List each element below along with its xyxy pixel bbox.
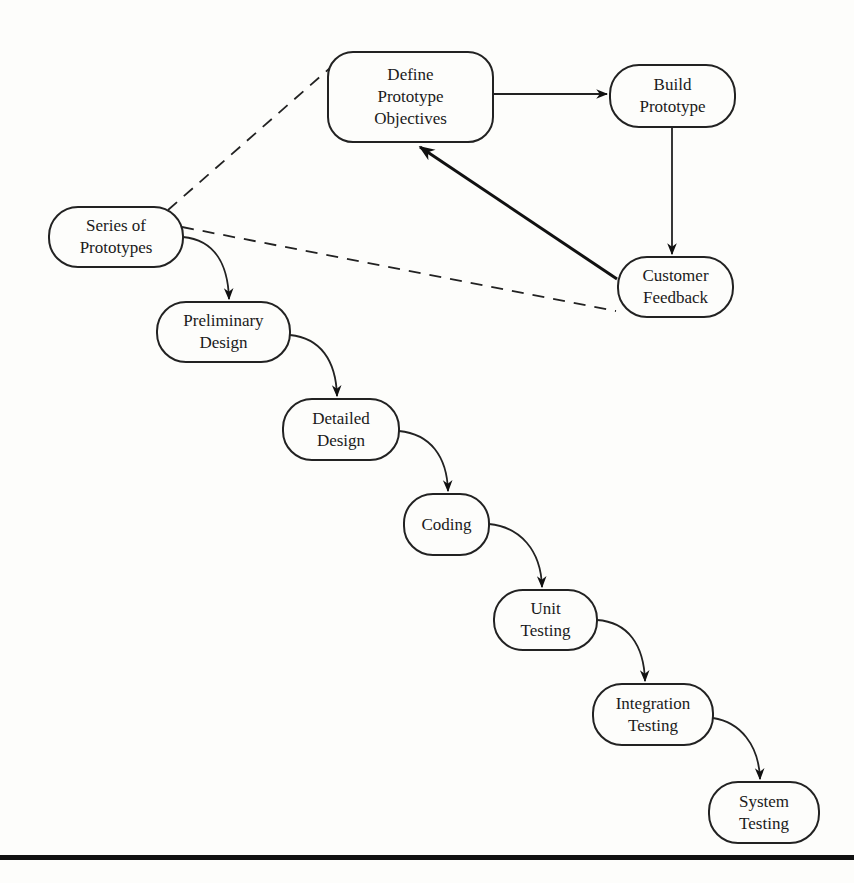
dashed-edge-series-feedback [182, 227, 616, 311]
node-detailed-design: Detailed Design [282, 398, 400, 461]
node-label: Unit Testing [521, 598, 571, 642]
bottom-rule-divider [0, 855, 854, 860]
node-preliminary-design: Preliminary Design [156, 301, 291, 363]
node-label: Build Prototype [639, 74, 705, 118]
edge-unit-integration [597, 620, 645, 681]
node-label: Detailed Design [312, 408, 370, 452]
edge-coding-unit [489, 524, 542, 587]
dashed-edge-series-define [168, 68, 330, 210]
edge-detailed-coding [399, 431, 448, 491]
node-label: Define Prototype Objectives [374, 64, 447, 130]
node-label: System Testing [739, 791, 789, 835]
node-label: Coding [421, 514, 471, 536]
node-label: Series of Prototypes [80, 215, 153, 259]
node-label: Customer Feedback [642, 265, 708, 309]
node-customer-feedback: Customer Feedback [617, 256, 734, 318]
node-integration-testing: Integration Testing [592, 683, 714, 746]
node-label: Integration Testing [616, 693, 691, 737]
node-define-prototype-objectives: Define Prototype Objectives [327, 51, 494, 143]
node-build-prototype: Build Prototype [609, 64, 736, 128]
edge-series-prelim [183, 237, 229, 299]
edge-integration-system [713, 718, 760, 779]
edge-feedback-define [420, 147, 617, 279]
node-unit-testing: Unit Testing [493, 589, 598, 651]
node-label: Preliminary Design [183, 310, 263, 354]
node-series-of-prototypes: Series of Prototypes [48, 206, 184, 268]
node-system-testing: System Testing [708, 781, 820, 844]
node-coding: Coding [403, 493, 490, 556]
edge-prelim-detailed [290, 335, 337, 396]
